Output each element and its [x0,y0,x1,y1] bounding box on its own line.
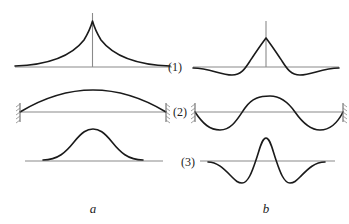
right-wall-2a [166,103,170,123]
row-label-2: (2) [173,105,187,119]
panel-2a [16,90,170,123]
column-label-b: b [263,201,270,216]
panel-3b [200,138,335,183]
panel-1a [15,13,172,67]
left-wall-2a [16,103,20,123]
right-wall-2b [343,103,347,123]
panel-2b [191,96,347,130]
figure-canvas: (1) (2) (3) a b [0,0,349,224]
left-wall-2b [191,103,195,123]
panel-1b [193,21,339,75]
bell-curve-3a [43,129,143,160]
row-label-3: (3) [181,155,195,169]
wave-curve-2b [195,96,343,130]
arch-curve-2a [20,90,166,112]
row-label-1: (1) [168,60,182,74]
column-label-a: a [90,201,97,216]
panel-3a [25,129,163,161]
